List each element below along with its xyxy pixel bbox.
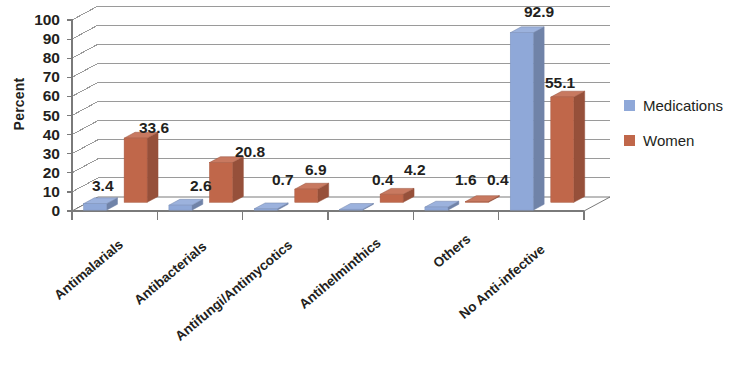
data-label-women-2: 6.9 xyxy=(305,162,327,178)
data-label-medications-1: 2.6 xyxy=(190,178,212,194)
data-label-medications-0: 3.4 xyxy=(92,178,114,194)
data-label-medications-5: 92.9 xyxy=(524,4,554,20)
data-label-women-5: 55.1 xyxy=(545,75,575,91)
data-label-women-0: 33.6 xyxy=(139,120,169,136)
legend-swatch-icon xyxy=(624,135,635,146)
data-label-women-4: 0.4 xyxy=(487,172,509,188)
data-label-medications-2: 0.7 xyxy=(272,172,294,188)
legend-swatch-icon xyxy=(624,100,635,111)
data-label-medications-4: 1.6 xyxy=(455,172,477,188)
legend-label: Women xyxy=(643,133,694,148)
data-label-medications-3: 0.4 xyxy=(372,172,394,188)
legend-label: Medications xyxy=(643,98,723,113)
chart-legend: MedicationsWomen xyxy=(624,98,734,168)
data-label-women-3: 4.2 xyxy=(404,162,426,178)
legend-item-medications[interactable]: Medications xyxy=(624,98,734,113)
data-label-women-1: 20.8 xyxy=(235,144,265,160)
bar-chart: Percent 1009080706050403020100 3.433.62.… xyxy=(0,0,734,374)
legend-item-women[interactable]: Women xyxy=(624,133,734,148)
